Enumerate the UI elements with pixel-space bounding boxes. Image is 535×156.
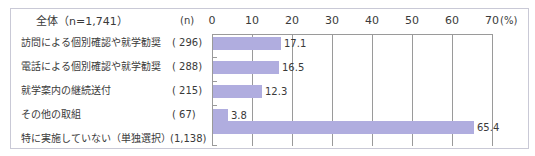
y-tick	[212, 145, 217, 146]
category-label: その他の取組	[21, 109, 81, 121]
x-tick-0: 0	[209, 15, 216, 27]
n-value: (1,138)	[170, 133, 206, 145]
x-tick-60: 60	[445, 15, 459, 27]
bar	[213, 85, 262, 98]
value-label: 17.1	[284, 38, 306, 50]
n-value: ( 67)	[172, 109, 196, 121]
y-tick	[212, 105, 217, 106]
x-tick-50: 50	[405, 15, 419, 27]
value-label: 65.4	[477, 122, 499, 134]
unit-label: (%)	[500, 15, 517, 27]
bar	[213, 61, 279, 74]
y-tick	[212, 81, 217, 82]
x-tick-30: 30	[325, 15, 339, 27]
x-axis-line	[212, 34, 492, 35]
chart-title: 全体（n=1,741）	[36, 16, 128, 28]
n-value: ( 288)	[172, 61, 202, 73]
category-label: 特に実施していない（単独選択）	[21, 133, 171, 145]
n-value: ( 296)	[172, 37, 202, 49]
n-header: (n)	[180, 15, 194, 27]
category-label: 就学案内の継続送付	[21, 85, 111, 97]
x-tick-70: 70	[485, 15, 499, 27]
n-value: ( 215)	[172, 85, 202, 97]
y-tick	[212, 57, 217, 58]
bar	[213, 37, 281, 50]
value-label: 12.3	[265, 86, 287, 98]
category-label: 電話による個別確認や就学勧奨	[21, 61, 161, 73]
x-tick-40: 40	[365, 15, 379, 27]
value-label: 16.5	[282, 62, 304, 74]
x-tick-10: 10	[245, 15, 259, 27]
x-tick-20: 20	[285, 15, 299, 27]
bar	[213, 121, 474, 134]
category-label: 訪問による個別確認や就学勧奨	[21, 37, 161, 49]
